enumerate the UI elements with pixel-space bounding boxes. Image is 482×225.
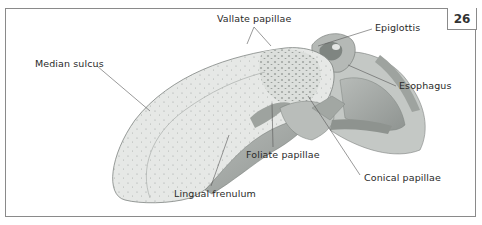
label-foliate-papillae: Foliate papillae: [246, 149, 320, 160]
label-vallate-papillae: Vallate papillae: [217, 13, 291, 24]
label-median-sulcus: Median sulcus: [35, 58, 104, 69]
label-conical-papillae: Conical papillae: [364, 172, 441, 183]
label-lingual-frenulum: Lingual frenulum: [174, 188, 256, 199]
label-esophagus: Esophagus: [399, 80, 452, 91]
epiglottis-highlight: [332, 44, 340, 50]
label-epiglottis: Epiglottis: [375, 22, 420, 33]
